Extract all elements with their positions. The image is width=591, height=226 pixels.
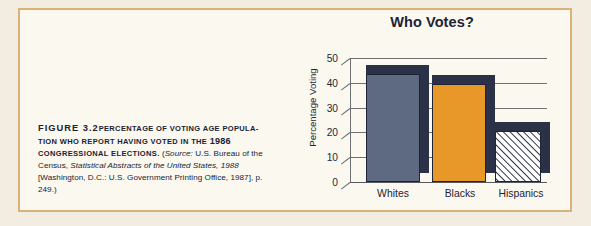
plot-region: 0 10 20 30 40 50 [342,50,547,198]
figure-source-text-b: [Washington, D.C.: U.S. Government Print… [38,173,262,194]
bar-whites-top [366,65,420,74]
bar-hispanics[interactable] [495,122,541,182]
x-tick-label-blacks: Blacks [427,188,493,199]
diagonal-hatch-pattern-icon [496,132,540,181]
chart-title: Who Votes? [296,14,568,30]
x-tick-label-whites: Whites [360,188,426,199]
bar-chart: Who Votes? Percentage Voting 0 10 20 30 … [296,10,568,208]
y-tick-label-50: 50 [327,53,338,64]
figure-headline-part-1: PERCENTAGE OF VOTING AGE POPULA- [99,124,259,133]
figure-caption: FIGURE 3.2PERCENTAGE OF VOTING AGE POPUL… [38,122,270,197]
depth-tick-50 [341,58,350,65]
x-tick-label-hispanics: Hispanics [486,188,556,199]
bar-blacks-face [432,84,486,182]
depth-tick-40 [341,83,350,90]
y-tick-label-30: 30 [327,102,338,113]
y-axis-label: Percentage Voting [307,48,318,168]
bar-blacks[interactable] [432,75,486,182]
figure-headline-part-3: CONGRESSIONAL ELECTIONS. [38,149,160,158]
y-axis-line [350,58,351,182]
x-axis-line [350,182,547,183]
figure-root: FIGURE 3.2PERCENTAGE OF VOTING AGE POPUL… [0,0,591,226]
depth-tick-0 [341,182,350,189]
y-tick-label-10: 10 [327,152,338,163]
bar-hispanics-top [495,122,541,131]
bar-whites-side [420,65,429,173]
figure-source-word: Source: [165,149,193,158]
figure-source-title: Statistical Abstracts of the United Stat… [70,161,239,170]
depth-tick-20 [341,132,350,139]
bar-whites-face [366,74,420,182]
bar-blacks-top [432,75,486,84]
bar-blacks-side [486,75,495,173]
figure-headline-year: 1986 [210,136,231,146]
depth-tick-10 [341,157,350,164]
bar-hispanics-face [495,131,541,182]
gridline-50: 50 [350,58,547,59]
bar-whites[interactable] [366,65,420,182]
figure-number-label: FIGURE 3.2 [38,123,99,133]
y-tick-label-40: 40 [327,77,338,88]
y-tick-label-0: 0 [332,177,338,188]
figure-headline-part-2: TION WHO REPORT HAVING VOTED IN THE [38,137,210,146]
y-tick-label-20: 20 [327,127,338,138]
depth-tick-30 [341,108,350,115]
